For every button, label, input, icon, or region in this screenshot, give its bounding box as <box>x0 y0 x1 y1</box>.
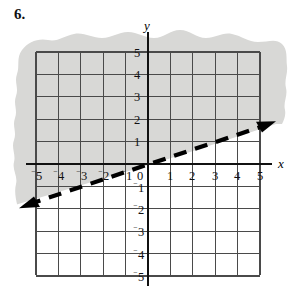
y-axis-label: y <box>142 18 150 33</box>
graph-svg: y x ⁻5 ⁻4 ⁻3 ⁻2 ⁻1 0 1 2 3 4 5 5 4 3 2 1… <box>0 0 304 291</box>
y-tick-label: 5 <box>134 46 140 60</box>
y-tick-label: 3 <box>138 225 144 239</box>
y-tick-label: 2 <box>138 203 144 217</box>
svg-text:⁻4: ⁻4 <box>133 247 145 262</box>
y-tick-label: 4 <box>138 248 145 262</box>
svg-text:⁻2: ⁻2 <box>133 202 144 217</box>
svg-text:⁻3: ⁻3 <box>133 224 144 239</box>
shaded-region <box>0 0 304 291</box>
x-tick-label: 5 <box>257 169 263 183</box>
figure-coordinate-plane: 6. <box>0 0 304 291</box>
svg-text:⁻1: ⁻1 <box>121 168 132 183</box>
y-tick-label: 2 <box>134 113 140 127</box>
x-axis-label: x <box>277 156 284 171</box>
y-tick-label: 5 <box>138 270 144 284</box>
x-tick-label: 1 <box>126 169 132 183</box>
y-tick-label: 1 <box>134 135 140 149</box>
x-tick-label: 2 <box>103 169 109 183</box>
x-tick-label: 3 <box>212 169 218 183</box>
x-tick-label: 3 <box>81 169 87 183</box>
svg-text:⁻1: ⁻1 <box>133 180 144 195</box>
y-tick-label: 3 <box>134 90 140 104</box>
x-tick-label: 4 <box>234 169 241 183</box>
x-tick-label: 4 <box>58 169 65 183</box>
y-tick-label: 4 <box>134 68 141 82</box>
x-tick-label: 1 <box>167 169 173 183</box>
arrowhead-right <box>256 121 276 132</box>
svg-text:⁻5: ⁻5 <box>133 269 144 284</box>
y-tick-label: 1 <box>138 181 144 195</box>
x-tick-label: 5 <box>36 169 42 183</box>
x-tick-label: 2 <box>189 169 195 183</box>
